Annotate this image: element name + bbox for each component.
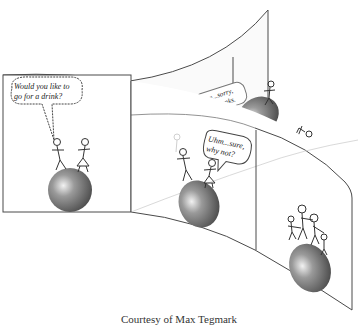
bubble-text-1-line1: Would you like to xyxy=(14,82,69,91)
lower-branch: Uhm...sure, why not? xyxy=(131,81,358,310)
globe-icon xyxy=(48,168,92,212)
bubble-text-1-line2: go for a drink? xyxy=(14,92,62,101)
figure-caption: Courtesy of Max Tegmark xyxy=(0,313,358,325)
panel-1: Would you like to go for a drink? xyxy=(3,75,131,212)
branching-comic-diagram: Uhm...sorry, no thanks. xyxy=(0,0,358,329)
